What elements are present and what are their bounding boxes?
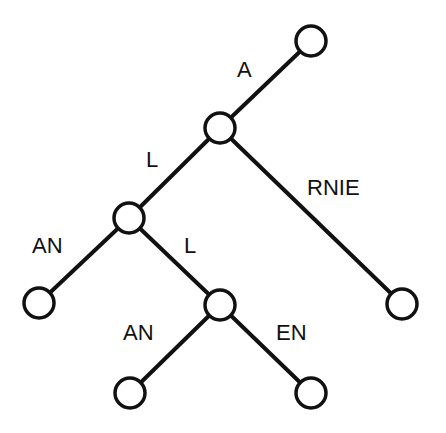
edge-an-upper (39, 218, 129, 303)
label-rnie: RNIE (307, 175, 360, 200)
node-internal-l (114, 203, 144, 233)
node-leaf-en (296, 378, 326, 408)
edge-an-lower (130, 305, 220, 393)
label-an-upper: AN (32, 233, 63, 258)
edge-rnie (220, 128, 402, 304)
node-leaf-an-lower (115, 378, 145, 408)
node-internal-ll (205, 290, 235, 320)
edge-l-upper (129, 128, 220, 218)
edge-labels: A L RNIE AN L AN EN (32, 57, 360, 345)
edge-a (220, 41, 311, 128)
label-a: A (237, 57, 252, 82)
node-leaf-rnie (387, 289, 417, 319)
suffix-tree-diagram: A L RNIE AN L AN EN (0, 0, 446, 433)
edge-l-lower (129, 218, 220, 305)
label-l-upper: L (146, 147, 158, 172)
node-root (205, 113, 235, 143)
label-l-lower: L (184, 233, 196, 258)
nodes (24, 26, 417, 408)
node-leaf-top (296, 26, 326, 56)
edges (39, 41, 402, 393)
node-leaf-an-upper (24, 288, 54, 318)
edge-en (220, 305, 311, 393)
label-an-lower: AN (123, 320, 154, 345)
label-en: EN (276, 320, 307, 345)
